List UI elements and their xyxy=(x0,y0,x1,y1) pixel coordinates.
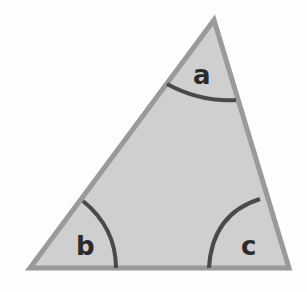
angle-label-a: a xyxy=(193,60,211,90)
angle-label-b: b xyxy=(76,231,95,261)
triangle-diagram: a b c xyxy=(0,0,307,292)
angle-label-c: c xyxy=(241,231,256,261)
triangle-svg: a b c xyxy=(0,0,307,292)
